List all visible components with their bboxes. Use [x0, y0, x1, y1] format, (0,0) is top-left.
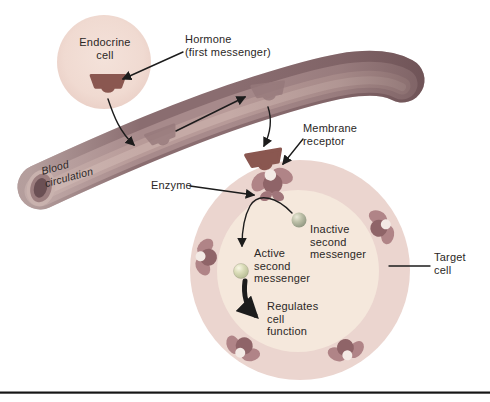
target-cell-label: Target cell: [434, 251, 466, 276]
regulates-cell-function-label: Regulates cell function: [267, 300, 318, 338]
endocrine-cell-shape: [57, 15, 151, 109]
bottom-rule: [0, 392, 490, 394]
hormone-label: Hormone (first messenger): [185, 33, 271, 58]
inactive-second-messenger-label: Inactive second messenger: [310, 223, 366, 261]
active-second-messenger-label: Active second messenger: [254, 247, 310, 285]
active-second-messenger-icon: [234, 264, 249, 279]
enzyme-label: Enzyme: [151, 179, 192, 192]
inactive-second-messenger-icon: [292, 213, 307, 228]
diagram-canvas: Endocrine cell Hormone (first messenger)…: [0, 0, 490, 402]
membrane-receptor-label: Membrane receptor: [303, 122, 357, 147]
endocrine-cell-label: Endocrine cell: [69, 36, 141, 61]
